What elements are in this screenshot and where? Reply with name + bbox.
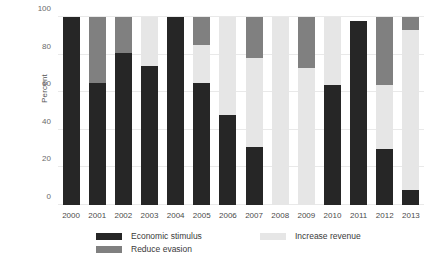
bar-slot: 2010 [319,17,345,205]
bar-segment[interactable] [298,68,315,205]
y-axis-tick-label: 60 [42,79,51,88]
x-axis-tick-label: 2005 [193,211,211,220]
bar-segment[interactable] [350,21,367,205]
x-axis-tick-label: 2010 [324,211,342,220]
x-axis-tick-label: 2007 [245,211,263,220]
bar-slot: 2000 [58,17,84,205]
bar-group: 2000200120022003200420052006200720082009… [58,17,424,205]
legend-item[interactable]: Economic stimulus [96,231,202,241]
legend-item[interactable]: Reduce evasion [96,244,192,254]
y-axis-tick-label: 80 [42,41,51,50]
x-axis-tick-label: 2000 [62,211,80,220]
bar-slot: 2004 [163,17,189,205]
bar-slot: 2009 [293,17,319,205]
bar-segment[interactable] [115,53,132,205]
y-axis-tick-label: 100 [38,4,51,13]
stacked-bar[interactable] [272,17,289,205]
bar-segment[interactable] [193,83,210,205]
plot-area: 020406080100 200020012002200320042005200… [58,17,424,205]
x-axis-tick-label: 2002 [114,211,132,220]
bar-segment[interactable] [167,17,184,205]
bar-segment[interactable] [141,17,158,66]
bar-segment[interactable] [272,17,289,205]
x-axis-tick-label: 2004 [167,211,185,220]
x-axis-tick-label: 2012 [376,211,394,220]
legend-swatch [96,246,122,253]
legend-label: Reduce evasion [131,244,192,254]
bar-segment[interactable] [402,30,419,190]
stacked-bar[interactable] [324,17,341,205]
x-axis-tick-label: 2009 [297,211,315,220]
x-axis-tick-label: 2001 [88,211,106,220]
stacked-bar[interactable] [246,17,263,205]
x-axis-tick-label: 2006 [219,211,237,220]
stacked-bar[interactable] [167,17,184,205]
bar-segment[interactable] [63,17,80,205]
bar-segment[interactable] [402,17,419,30]
bar-segment[interactable] [324,17,341,85]
bar-segment[interactable] [298,17,315,68]
bar-slot: 2012 [372,17,398,205]
y-axis-tick-label: 20 [42,154,51,163]
bar-slot: 2003 [136,17,162,205]
stacked-bar[interactable] [63,17,80,205]
stacked-bar[interactable] [402,17,419,205]
stacked-bar[interactable] [193,17,210,205]
bar-segment[interactable] [402,190,419,205]
bar-slot: 2013 [398,17,424,205]
x-axis-tick-label: 2011 [350,211,367,220]
chart-legend: Economic stimulusReduce evasionIncrease … [96,231,426,259]
stacked-bar[interactable] [350,17,367,205]
bar-slot: 2006 [215,17,241,205]
bar-slot: 2002 [110,17,136,205]
bar-segment[interactable] [324,85,341,205]
bar-slot: 2007 [241,17,267,205]
bar-segment[interactable] [193,45,210,83]
y-axis-tick-label: 0 [47,192,51,201]
x-axis-tick-label: 2013 [402,211,420,220]
bar-segment[interactable] [115,17,132,53]
legend-label: Economic stimulus [131,231,202,241]
stacked-bar[interactable] [376,17,393,205]
bar-segment[interactable] [141,66,158,205]
bar-segment[interactable] [246,58,263,146]
bar-slot: 2011 [346,17,372,205]
y-axis-tick-label: 40 [42,116,51,125]
y-axis-title: Percent [40,59,49,119]
bar-slot: 2005 [189,17,215,205]
stacked-bar[interactable] [115,17,132,205]
bar-segment[interactable] [219,17,236,115]
bar-segment[interactable] [89,83,106,205]
legend-swatch [96,233,122,240]
stacked-bar[interactable] [89,17,106,205]
x-axis-tick-label: 2008 [271,211,289,220]
x-axis-tick-label: 2003 [141,211,159,220]
bar-segment[interactable] [376,17,393,85]
bar-segment[interactable] [376,85,393,149]
bar-segment[interactable] [246,147,263,205]
bar-segment[interactable] [193,17,210,45]
bar-segment[interactable] [376,149,393,205]
stacked-bar[interactable] [141,17,158,205]
legend-swatch [260,233,286,240]
legend-item[interactable]: Increase revenue [260,231,361,241]
bar-segment[interactable] [89,17,106,83]
bar-segment[interactable] [219,115,236,205]
stacked-bar[interactable] [298,17,315,205]
stacked-bar[interactable] [219,17,236,205]
bar-slot: 2008 [267,17,293,205]
bar-segment[interactable] [246,17,263,58]
chart-figure: Percent 020406080100 2000200120022003200… [0,0,438,263]
legend-label: Increase revenue [295,231,361,241]
bar-slot: 2001 [84,17,110,205]
